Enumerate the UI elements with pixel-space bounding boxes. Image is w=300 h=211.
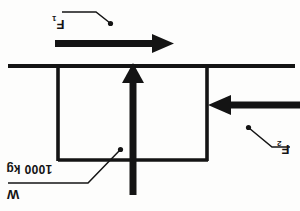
force-label-f2-subscript: 2 — [277, 139, 281, 148]
mass-label: 1000 kg — [6, 163, 52, 175]
force-label-f1-letter: F — [56, 17, 64, 32]
force-label-f1: F1 — [52, 14, 64, 31]
diagram-canvas — [0, 0, 300, 211]
weight-label: W — [7, 188, 19, 201]
f1-arrowhead — [152, 34, 174, 53]
force-arrow-w — [122, 63, 144, 195]
force-arrow-f1 — [55, 34, 174, 53]
leader-f1-path — [62, 12, 110, 23]
f2-arrowhead — [208, 95, 231, 115]
force-label-f1-subscript: 1 — [52, 14, 56, 23]
force-label-f2: F2 — [277, 139, 289, 156]
free-body-diagram: F1 F2 1000 kg W — [0, 0, 300, 211]
leader-f1 — [62, 12, 113, 26]
leader-f1-dot — [108, 21, 113, 26]
force-arrow-f2 — [208, 95, 300, 115]
leader-f2-dot — [246, 125, 251, 130]
leader-mass-dot — [118, 147, 123, 152]
force-label-f2-letter: F — [281, 142, 289, 157]
